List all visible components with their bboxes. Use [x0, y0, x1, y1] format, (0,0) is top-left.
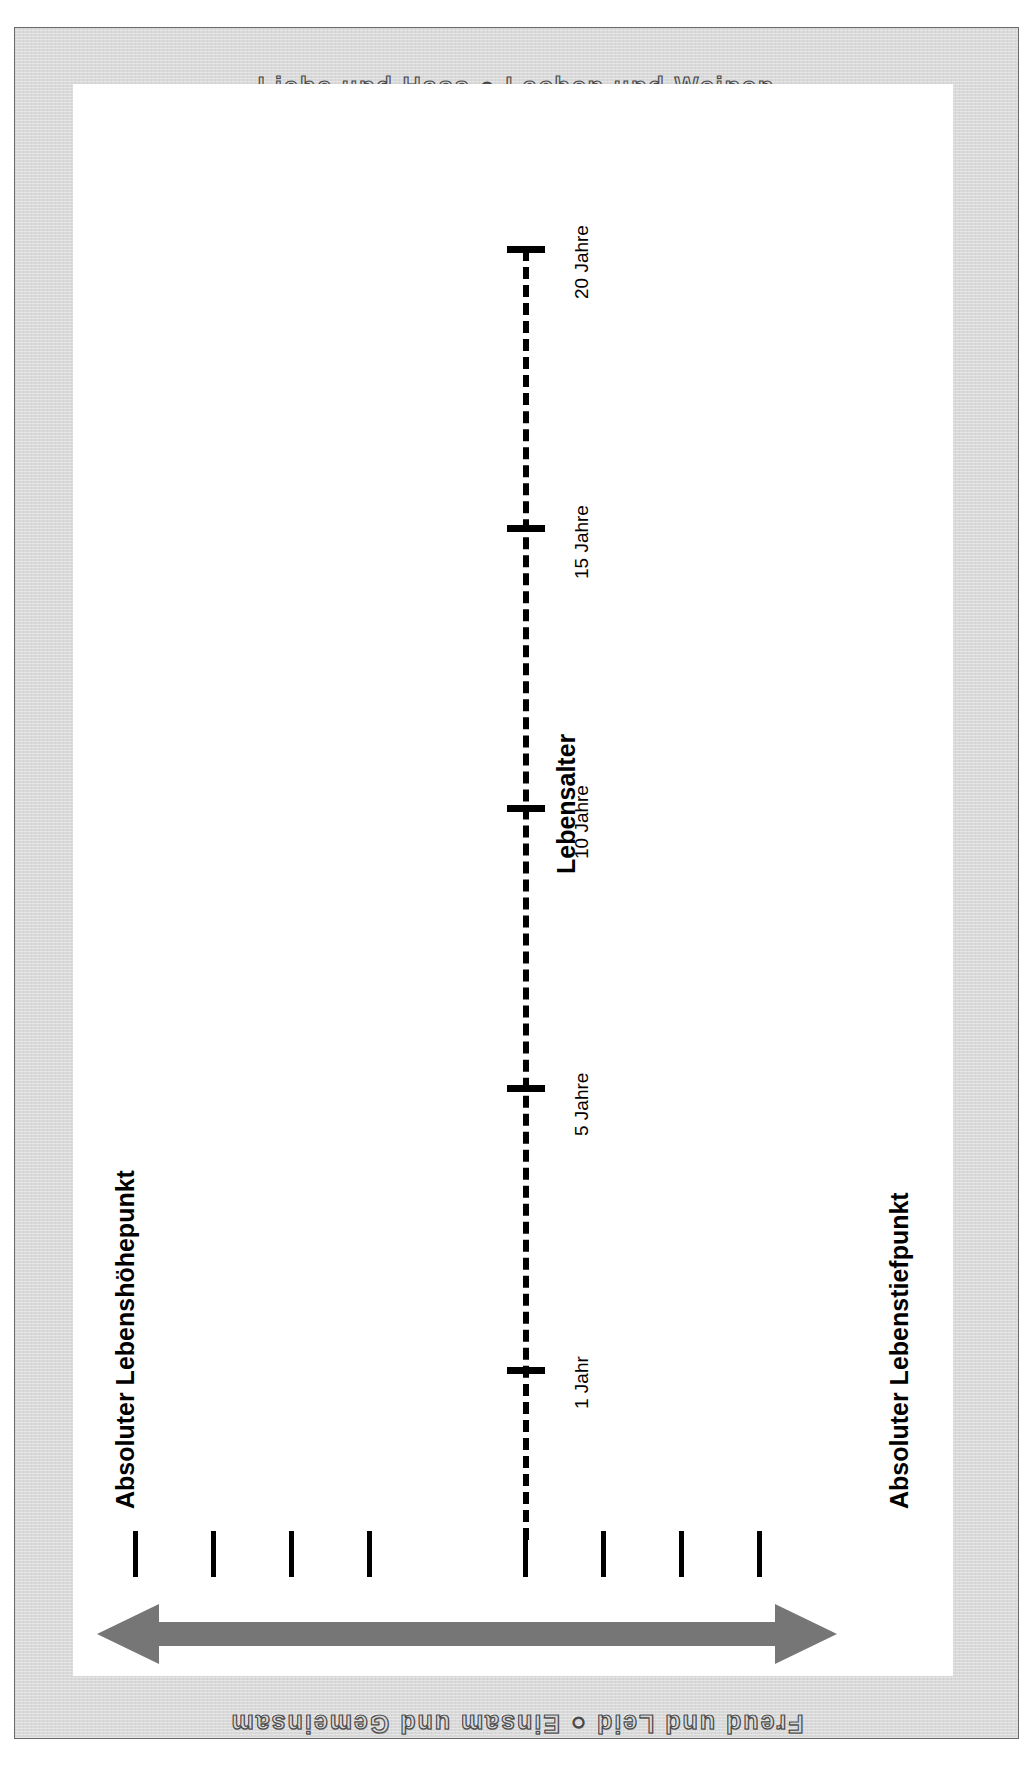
scale-tick — [211, 1531, 216, 1577]
double-headed-arrow-icon — [97, 1602, 837, 1666]
scale-tick — [367, 1531, 372, 1577]
axis-tick-20-jahre — [507, 246, 545, 253]
axis-label-20-jahre: 20 Jahre — [571, 225, 593, 299]
poster-frame: Liebe und Hass ○ Lachen und Weinen Freud… — [14, 27, 1019, 1739]
frame-text-bottom: Freud und Leid ○ Einsam und Gemeinsam — [15, 1709, 1018, 1738]
axis-tick-15-jahre — [507, 525, 545, 532]
timeline-axis — [523, 249, 529, 1540]
axis-tick-5-jahre — [507, 1085, 545, 1092]
axis-label-15-jahre: 15 Jahre — [571, 505, 593, 579]
axis-tick-10-jahre — [507, 805, 545, 812]
scale-tick — [757, 1531, 762, 1577]
scale-tick — [289, 1531, 294, 1577]
scale-tick-row — [73, 1531, 953, 1577]
poster-page: Liebe und Hass ○ Lachen und Weinen Freud… — [0, 0, 1033, 1766]
axis-tick-1-jahr — [507, 1367, 545, 1374]
scale-tick — [133, 1531, 138, 1577]
label-absolute-high-point: Absoluter Lebenshöhepunkt — [111, 1170, 140, 1509]
chart-title: Lebensalter — [552, 734, 581, 874]
label-absolute-low-point: Absoluter Lebenstiefpunkt — [885, 1192, 914, 1509]
axis-label-1-jahr: 1 Jahr — [571, 1356, 593, 1409]
scale-tick — [601, 1531, 606, 1577]
scale-tick — [523, 1531, 528, 1577]
axis-label-5-jahre: 5 Jahre — [571, 1073, 593, 1136]
chart-canvas: 20 Jahre 15 Jahre 10 Jahre 5 Jahre 1 Jah… — [73, 84, 953, 1676]
scale-tick — [679, 1531, 684, 1577]
